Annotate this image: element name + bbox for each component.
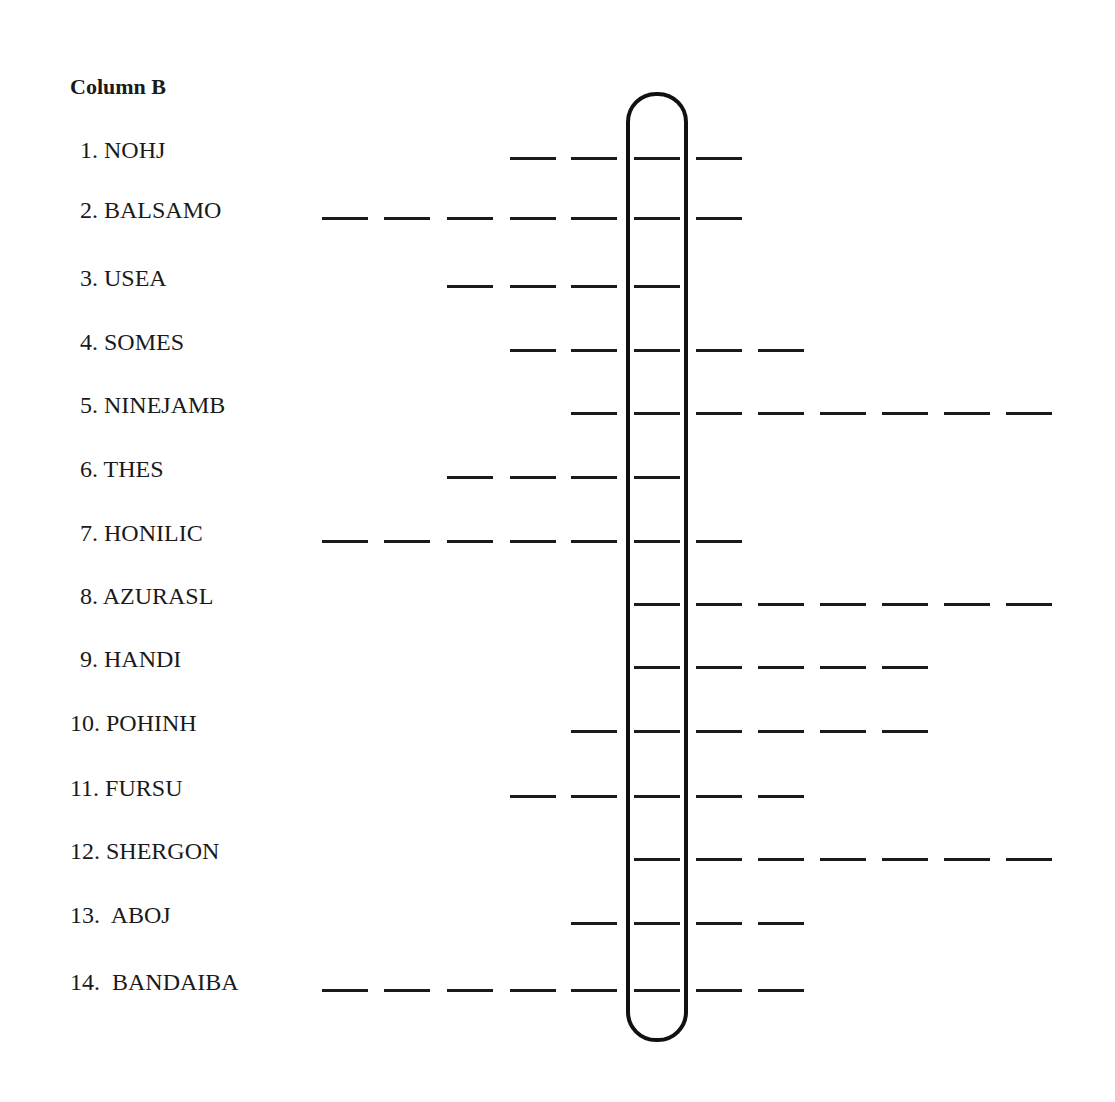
letter-blank[interactable]	[820, 666, 866, 669]
letter-blank[interactable]	[510, 795, 556, 798]
letter-blank[interactable]	[1006, 603, 1052, 606]
letter-blank[interactable]	[384, 217, 430, 220]
letter-blank[interactable]	[322, 989, 368, 992]
letter-blank[interactable]	[510, 217, 556, 220]
scrambled-word-7: 7. HONILIC	[80, 519, 203, 547]
answer-letter-blank[interactable]	[634, 795, 680, 798]
answer-column-capsule	[626, 92, 688, 1042]
letter-blank[interactable]	[944, 858, 990, 861]
scrambled-word-3: 3. USEA	[80, 264, 167, 292]
letter-blank[interactable]	[1006, 412, 1052, 415]
letter-blank[interactable]	[820, 730, 866, 733]
scrambled-word-4: 4. SOMES	[80, 328, 184, 356]
letter-blank[interactable]	[571, 989, 617, 992]
answer-letter-blank[interactable]	[634, 285, 680, 288]
letter-blank[interactable]	[758, 922, 804, 925]
letter-blank[interactable]	[571, 157, 617, 160]
letter-blank[interactable]	[447, 217, 493, 220]
letter-blank[interactable]	[758, 858, 804, 861]
letter-blank[interactable]	[758, 412, 804, 415]
letter-blank[interactable]	[384, 989, 430, 992]
letter-blank[interactable]	[820, 603, 866, 606]
letter-blank[interactable]	[882, 603, 928, 606]
letter-blank[interactable]	[696, 858, 742, 861]
letter-blank[interactable]	[882, 666, 928, 669]
item-number: 12.	[70, 838, 100, 864]
letter-blank[interactable]	[758, 666, 804, 669]
letter-blank[interactable]	[571, 217, 617, 220]
letter-blank[interactable]	[571, 922, 617, 925]
answer-letter-blank[interactable]	[634, 476, 680, 479]
letter-blank[interactable]	[820, 412, 866, 415]
scrambled-word-1: 1. NOHJ	[80, 136, 165, 164]
letter-blank[interactable]	[882, 412, 928, 415]
letter-blank[interactable]	[571, 285, 617, 288]
letter-blank[interactable]	[447, 540, 493, 543]
item-number: 14.	[70, 969, 100, 995]
letter-blank[interactable]	[696, 157, 742, 160]
letter-blank[interactable]	[696, 603, 742, 606]
letter-blank[interactable]	[384, 540, 430, 543]
letter-blank[interactable]	[510, 285, 556, 288]
answer-letter-blank[interactable]	[634, 217, 680, 220]
answer-letter-blank[interactable]	[634, 157, 680, 160]
letter-blank[interactable]	[696, 217, 742, 220]
letter-blank[interactable]	[696, 666, 742, 669]
letter-blank[interactable]	[510, 157, 556, 160]
letter-blank[interactable]	[944, 412, 990, 415]
letter-blank[interactable]	[571, 476, 617, 479]
item-number: 6.	[80, 456, 98, 482]
letter-blank[interactable]	[882, 730, 928, 733]
letter-blank[interactable]	[696, 412, 742, 415]
letter-blank[interactable]	[696, 922, 742, 925]
scrambled-word-10: 10. POHINH	[70, 709, 197, 737]
letter-blank[interactable]	[1006, 858, 1052, 861]
letter-blank[interactable]	[696, 730, 742, 733]
item-word: THES	[98, 456, 164, 482]
letter-blank[interactable]	[758, 795, 804, 798]
letter-blank[interactable]	[820, 858, 866, 861]
letter-blank[interactable]	[696, 795, 742, 798]
letter-blank[interactable]	[696, 349, 742, 352]
scrambled-word-9: 9. HANDI	[80, 645, 181, 673]
letter-blank[interactable]	[571, 412, 617, 415]
item-word: HONILIC	[98, 520, 203, 546]
letter-blank[interactable]	[882, 858, 928, 861]
scrambled-word-5: 5. NINEJAMB	[80, 391, 225, 419]
letter-blank[interactable]	[322, 217, 368, 220]
letter-blank[interactable]	[510, 989, 556, 992]
answer-letter-blank[interactable]	[634, 922, 680, 925]
letter-blank[interactable]	[571, 540, 617, 543]
answer-letter-blank[interactable]	[634, 858, 680, 861]
letter-blank[interactable]	[571, 730, 617, 733]
letter-blank[interactable]	[447, 989, 493, 992]
item-number: 3.	[80, 265, 98, 291]
item-number: 13.	[70, 902, 100, 928]
letter-blank[interactable]	[758, 730, 804, 733]
letter-blank[interactable]	[696, 989, 742, 992]
letter-blank[interactable]	[758, 349, 804, 352]
letter-blank[interactable]	[510, 349, 556, 352]
letter-blank[interactable]	[571, 795, 617, 798]
letter-blank[interactable]	[696, 540, 742, 543]
letter-blank[interactable]	[944, 603, 990, 606]
letter-blank[interactable]	[758, 989, 804, 992]
letter-blank[interactable]	[447, 285, 493, 288]
answer-letter-blank[interactable]	[634, 540, 680, 543]
letter-blank[interactable]	[322, 540, 368, 543]
letter-blank[interactable]	[571, 349, 617, 352]
item-word: SHERGON	[100, 838, 219, 864]
answer-letter-blank[interactable]	[634, 989, 680, 992]
item-number: 8.	[80, 583, 98, 609]
scrambled-word-14: 14. BANDAIBA	[70, 968, 239, 996]
answer-letter-blank[interactable]	[634, 603, 680, 606]
item-word: USEA	[98, 265, 167, 291]
answer-letter-blank[interactable]	[634, 666, 680, 669]
letter-blank[interactable]	[510, 476, 556, 479]
letter-blank[interactable]	[510, 540, 556, 543]
letter-blank[interactable]	[758, 603, 804, 606]
answer-letter-blank[interactable]	[634, 349, 680, 352]
answer-letter-blank[interactable]	[634, 730, 680, 733]
letter-blank[interactable]	[447, 476, 493, 479]
answer-letter-blank[interactable]	[634, 412, 680, 415]
